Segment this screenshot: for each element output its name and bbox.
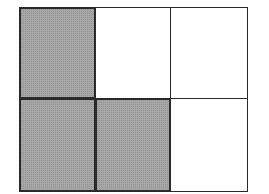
unshaded-cell (170, 7, 248, 99)
shaded-cell (95, 98, 171, 192)
shaded-cell (19, 98, 96, 192)
diagram-canvas (0, 0, 269, 194)
unshaded-cell (170, 98, 248, 192)
shaded-cell (19, 7, 96, 99)
fraction-grid (20, 8, 248, 192)
unshaded-cell (95, 7, 171, 99)
